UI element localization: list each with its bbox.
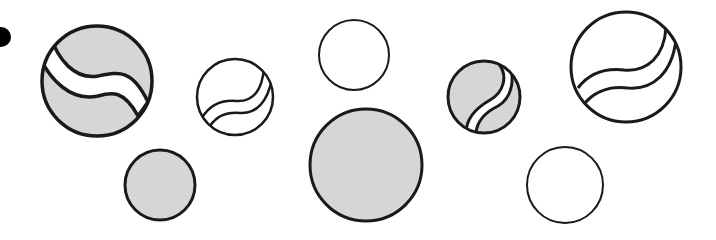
circles-diagram bbox=[0, 0, 716, 240]
white-circle-top bbox=[319, 20, 389, 90]
white-circle-wave-large bbox=[571, 12, 681, 122]
gray-circle-medium bbox=[125, 150, 195, 220]
gray-circle-wave-large bbox=[38, 26, 152, 136]
black-dot bbox=[0, 27, 11, 47]
white-circle-bottom bbox=[527, 147, 603, 223]
white-circle-wave-small bbox=[197, 59, 273, 135]
gray-circle-wave-vertical bbox=[448, 61, 520, 133]
gray-circle-large bbox=[310, 109, 422, 221]
